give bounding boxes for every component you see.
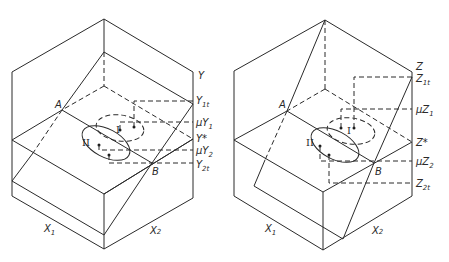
left-ab-line — [62, 110, 152, 163]
right-hidden-slant — [265, 111, 287, 160]
right-slant-upper — [374, 77, 412, 163]
left-plane-top-edge — [104, 52, 193, 104]
right-panel: A B I II Z Z1t μZ1 Z* μZ2 Z2t X1 X2 — [234, 20, 434, 250]
left-panel: A B I II Y Y1t μY1 Y* μY2 Y2t X1 X2 — [12, 19, 213, 249]
left-hidden-edge-a — [62, 86, 104, 110]
left-hidden-slant — [33, 110, 62, 153]
right-label-mu2: μZ2 — [415, 156, 434, 170]
left-label-x1: X1 — [43, 223, 55, 237]
right-slant-lower — [254, 160, 265, 186]
right-label-2t: Z2t — [415, 178, 430, 192]
right-label-b: B — [375, 166, 382, 177]
left-label-region-2: II — [82, 137, 90, 148]
right-label-region-2: II — [306, 137, 314, 148]
right-label-region-1: I — [347, 125, 351, 136]
right-ab-line — [287, 111, 374, 163]
right-plane-edge-a — [287, 20, 325, 111]
left-slant-lower — [12, 153, 33, 181]
right-label-1t: Z1t — [415, 73, 430, 87]
left-proj-2t — [109, 155, 193, 163]
left-proj-1t — [134, 101, 193, 127]
left-slant-bottom — [12, 181, 104, 235]
right-hidden-edge-right — [325, 89, 412, 142]
left-proj-mu1 — [120, 122, 193, 130]
left-label-mu2: μY2 — [195, 145, 213, 159]
left-label-region-1: I — [116, 124, 120, 135]
right-label-a: A — [278, 99, 286, 110]
left-label-star: Y* — [196, 133, 207, 144]
left-ystar-plane — [12, 110, 193, 194]
diagram-figure: A B I II Y Y1t μY1 Y* μY2 Y2t X1 X2 — [0, 0, 449, 262]
right-proj-2t — [329, 155, 412, 183]
right-label-x1: X1 — [264, 223, 276, 237]
left-label-axis: Y — [198, 70, 205, 81]
right-region-1-ellipse — [325, 115, 376, 147]
left-label-1t: Y1t — [196, 95, 210, 109]
left-label-b: B — [152, 166, 159, 177]
left-label-mu1: μY1 — [195, 117, 213, 131]
left-slant-upper — [152, 104, 193, 163]
right-zstar-plane — [234, 111, 412, 192]
right-label-axis: Z — [415, 61, 424, 72]
right-label-star: Z* — [415, 137, 428, 148]
left-slant-b — [104, 163, 152, 235]
right-label-mu1: μZ1 — [415, 104, 434, 118]
left-front-right-edge — [104, 139, 193, 194]
left-label-a: A — [54, 99, 62, 110]
right-slant-b — [343, 163, 374, 239]
right-proj-mu1 — [341, 109, 412, 128]
left-plane-edge-a — [62, 52, 104, 110]
right-label-x2: X2 — [371, 225, 384, 236]
left-label-x2: X2 — [149, 225, 162, 236]
left-label-2t: Y2t — [196, 159, 210, 173]
right-hidden-edge-a — [287, 89, 325, 111]
